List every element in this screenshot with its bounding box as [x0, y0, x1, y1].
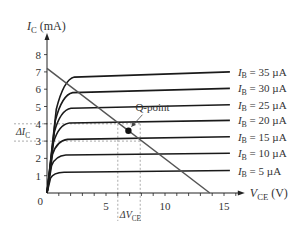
q-point-marker [125, 128, 131, 134]
y-tick-label: 5 [36, 101, 42, 113]
delta-ic-label: ΔIC [15, 126, 30, 140]
ib-curve [47, 105, 230, 193]
origin-label: 0 [38, 195, 44, 207]
delta-vce-label: ΔVCE [119, 209, 142, 223]
y-tick-label: 1 [36, 170, 42, 182]
ib-curve [47, 120, 230, 193]
y-tick-label: 8 [36, 49, 42, 61]
ib-curve-label: IB = 20 µA [237, 114, 287, 129]
load-line-group [47, 68, 210, 193]
ib-curve-label: IB = 35 µA [237, 66, 287, 81]
ib-curve [47, 171, 230, 193]
y-axis-arrow-icon [45, 33, 50, 40]
x-tick-label: 15 [219, 200, 231, 212]
y-tick-label: 4 [36, 118, 42, 130]
bjt-characteristic-chart: 51015123456780 IC (mA)VCE (V)IB = 35 µAI… [0, 0, 302, 229]
y-tick-label: 7 [36, 66, 42, 78]
x-tick-label: 5 [103, 200, 109, 212]
ib-curve [47, 137, 230, 193]
y-tick-label: 3 [36, 135, 42, 147]
ib-curve-label: IB = 15 µA [237, 131, 287, 146]
ib-curve-label: IB = 25 µA [237, 99, 287, 114]
x-tick-label: 10 [160, 200, 172, 212]
y-tick-label: 6 [36, 83, 42, 95]
x-axis-arrow-icon [238, 191, 245, 196]
y-tick-label: 2 [36, 152, 42, 164]
q-point-label: Q-point [135, 101, 169, 113]
ib-curve-label: IB = 5 µA [237, 165, 281, 180]
ib-curve-label: IB = 30 µA [237, 82, 287, 97]
y-axis-title: IC (mA) [26, 19, 66, 35]
x-axis-title: VCE (V) [250, 186, 288, 202]
ib-curve-label: IB = 10 µA [237, 147, 287, 162]
